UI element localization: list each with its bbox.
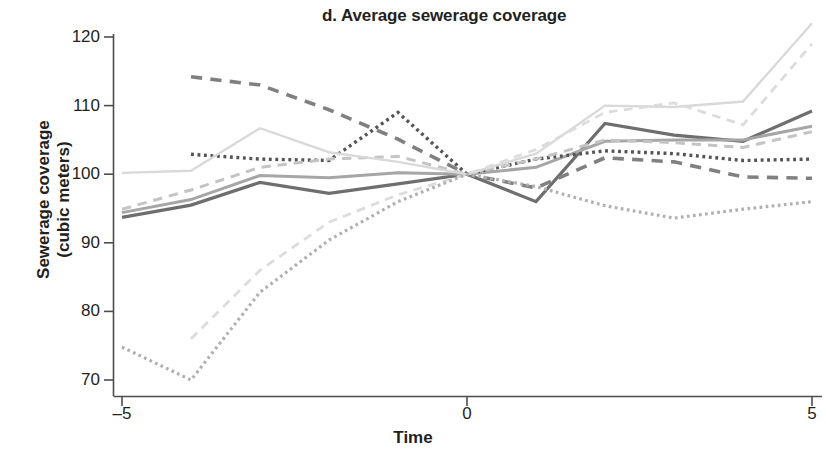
x-axis-tick-label: 0 [462, 404, 471, 424]
y-axis-title-line-1: Sewerage coverage [34, 120, 53, 279]
data-series-layer [122, 23, 812, 380]
y-axis-tick-label: 80 [50, 301, 100, 321]
y-axis-ticks [104, 37, 114, 380]
data-series-line [122, 111, 812, 217]
y-axis-tick-label: 100 [50, 164, 100, 184]
y-axis-tick-label: 120 [50, 27, 100, 47]
y-axis-tick-label: 110 [50, 96, 100, 116]
chart-figure: d. Average sewerage coverage Sewerage co… [0, 0, 826, 458]
y-axis-tick-label: 70 [50, 370, 100, 390]
data-series-line [122, 174, 812, 380]
y-axis-tick-label: 90 [50, 233, 100, 253]
x-axis-tick-label: 5 [807, 404, 816, 424]
data-series-line [191, 44, 812, 339]
data-series-line [122, 23, 812, 174]
line-chart-plot [0, 0, 826, 458]
x-axis-tick-label: –5 [113, 404, 132, 424]
x-axis-title: Time [393, 428, 432, 448]
data-series-line [122, 132, 812, 210]
data-series-line [122, 126, 812, 212]
chart-title: d. Average sewerage coverage [322, 6, 622, 26]
